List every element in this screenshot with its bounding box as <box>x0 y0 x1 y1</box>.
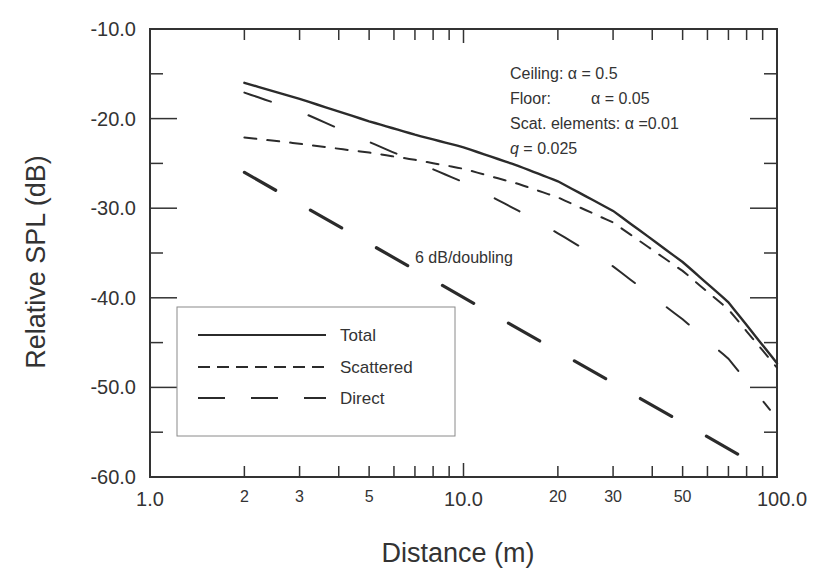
annotation-slope: 6 dB/doubling <box>415 249 513 266</box>
annotation-ceiling: Ceiling: α = 0.5 <box>510 65 618 82</box>
x-tick-label: 20 <box>549 488 567 505</box>
x-tick-label: 30 <box>604 488 622 505</box>
annotation-floor-label: Floor: <box>510 90 551 107</box>
annotation-q-symbol: q <box>510 140 519 157</box>
annotation-scat-elements: Scat. elements: α =0.01 <box>510 115 679 132</box>
y-tick-label: -30.0 <box>90 197 136 219</box>
annotation-floor: Floor: α = 0.05 <box>510 90 650 107</box>
legend: Total Scattered Direct <box>177 307 455 436</box>
spl-distance-chart: 1.023510.0203050100.0-10.0-20.0-30.0-40.… <box>0 0 827 582</box>
y-tick-label: -10.0 <box>90 18 136 40</box>
legend-box <box>177 307 455 436</box>
legend-label-total: Total <box>340 326 376 345</box>
x-tick-label: 50 <box>674 488 692 505</box>
annotation-q-value: = 0.025 <box>519 140 577 157</box>
annotation-floor-value: α = 0.05 <box>591 90 650 107</box>
x-tick-label: 100.0 <box>757 488 807 510</box>
x-tick-label: 3 <box>295 488 304 505</box>
y-tick-label: -50.0 <box>90 376 136 398</box>
y-tick-label: -60.0 <box>90 466 136 488</box>
x-tick-label: 10.0 <box>444 488 483 510</box>
x-tick-label: 2 <box>240 488 249 505</box>
x-axis-title: Distance (m) <box>381 538 534 568</box>
legend-label-scattered: Scattered <box>340 358 413 377</box>
x-tick-label: 5 <box>365 488 374 505</box>
legend-label-direct: Direct <box>340 389 385 408</box>
y-tick-label: -40.0 <box>90 287 136 309</box>
x-tick-label: 1.0 <box>136 488 164 510</box>
y-axis-title: Relative SPL (dB) <box>21 155 51 369</box>
annotation-q: q = 0.025 <box>510 140 577 157</box>
y-tick-label: -20.0 <box>90 108 136 130</box>
parameter-annotation: Ceiling: α = 0.5 Floor: α = 0.05 Scat. e… <box>415 65 679 266</box>
